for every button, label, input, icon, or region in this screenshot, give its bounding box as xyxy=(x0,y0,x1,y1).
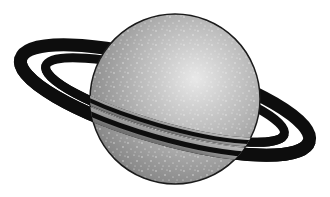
planet-illustration xyxy=(0,0,330,197)
saturn-icon xyxy=(0,0,330,197)
